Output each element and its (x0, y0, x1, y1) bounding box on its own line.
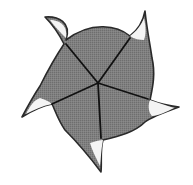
diagram-stage (0, 0, 193, 185)
tip-highlight-right (149, 100, 174, 116)
tip-highlight-top-right (130, 18, 146, 40)
pinwheel-shape (0, 0, 193, 185)
